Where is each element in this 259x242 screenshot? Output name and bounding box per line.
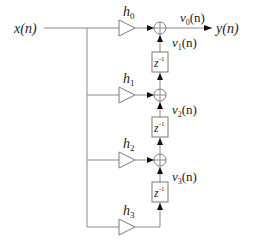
output-label: y(n) [214,21,239,37]
arrow-icon [157,138,163,145]
gain-h0: h0 [119,4,135,36]
signal-v0: v0(n) [180,10,205,27]
input-label: x(n) [13,21,37,37]
arrow-icon [204,25,212,31]
signal-v1: v1(n) [172,35,197,52]
svg-text:h3: h3 [123,203,135,220]
adder-0 [154,22,166,34]
signal-v2: v2(n) [172,102,197,119]
arrow-icon [147,92,154,98]
adder-2 [154,154,166,166]
delay-2: z-1 [152,117,168,137]
delay-1: z-1 [152,52,168,72]
arrow-icon [157,35,163,42]
arrow-icon [157,102,163,109]
adder-1 [154,89,166,101]
delay-3: z-1 [152,182,168,202]
arrow-icon [157,203,163,210]
svg-text:h0: h0 [123,4,135,21]
svg-text:h1: h1 [123,71,135,88]
arrow-icon [157,167,163,174]
arrow-icon [147,25,154,31]
svg-text:h2: h2 [123,136,135,153]
fir-diagram: x(n) h0 h1 h2 h3 [0,0,259,242]
gain-h3: h3 [119,203,135,235]
gain-h1: h1 [119,71,135,103]
signal-v3: v3(n) [172,169,197,186]
gain-h2: h2 [119,136,135,168]
arrow-icon [147,157,154,163]
arrow-icon [157,73,163,80]
